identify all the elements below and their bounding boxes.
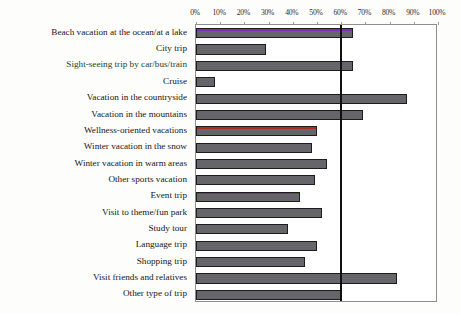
chart-row	[196, 123, 436, 139]
bar	[196, 44, 266, 54]
category-label: Beach vacation at the ocean/at a lake	[51, 27, 187, 37]
x-tick-label: 60%	[334, 8, 347, 17]
x-tick-label: 30%	[261, 8, 274, 17]
category-label: Winter vacation in the snow	[84, 141, 187, 151]
bar-accent-stripe	[197, 29, 352, 31]
bar	[196, 61, 353, 71]
chart-row	[196, 254, 436, 270]
bar	[196, 175, 315, 185]
y-axis-category-labels: Beach vacation at the ocean/at a lakeCit…	[0, 24, 191, 302]
category-label: Other type of trip	[123, 288, 187, 298]
category-label: Winter vacation in warm areas	[75, 158, 187, 168]
chart-row	[196, 205, 436, 221]
reference-line-60-percent	[340, 25, 342, 301]
chart-row	[196, 270, 436, 286]
category-label: Sight-seeing trip by car/bus/train	[66, 59, 187, 69]
x-axis-tick-labels: 0%10%20%30%40%50%60%70%80%90%100%	[195, 8, 437, 21]
bar	[196, 224, 288, 234]
chart-row	[196, 90, 436, 106]
chart-row	[196, 221, 436, 237]
bar	[196, 143, 312, 153]
category-label: Shopping trip	[137, 256, 187, 266]
chart-row	[196, 74, 436, 90]
x-tick-label: 90%	[406, 8, 419, 17]
bar-accent-stripe	[197, 127, 316, 129]
category-label: Vacation in the countryside	[87, 92, 187, 102]
bar-accent-stripe	[197, 193, 299, 195]
x-tick-label: 70%	[358, 8, 371, 17]
bar	[196, 257, 305, 267]
category-label: Cruise	[163, 76, 187, 86]
bar	[196, 77, 215, 87]
chart-row	[196, 189, 436, 205]
x-tick-label: 100%	[429, 8, 446, 17]
category-label: Wellness-oriented vacations	[84, 125, 187, 135]
category-label: Visit to theme/fun park	[102, 207, 187, 217]
bar	[196, 159, 327, 169]
category-label: Event trip	[151, 190, 188, 200]
category-label: Language trip	[136, 239, 187, 249]
plot-area	[195, 24, 437, 302]
category-label: City trip	[156, 43, 187, 53]
bar	[196, 241, 317, 251]
chart-row	[196, 238, 436, 254]
bar-chart: 0%10%20%30%40%50%60%70%80%90%100% Beach …	[0, 0, 461, 314]
x-tick-label: 20%	[237, 8, 250, 17]
bar	[196, 94, 407, 104]
x-tick-label: 80%	[382, 8, 395, 17]
bar	[196, 110, 363, 120]
bar	[196, 273, 397, 283]
x-tick-label: 40%	[285, 8, 298, 17]
x-tick-label: 10%	[213, 8, 226, 17]
axis-tick-mark	[438, 22, 439, 25]
chart-row	[196, 41, 436, 57]
category-label: Other sports vacation	[108, 174, 187, 184]
chart-row	[196, 139, 436, 155]
x-tick-label: 50%	[309, 8, 322, 17]
bar	[196, 208, 322, 218]
bar	[196, 192, 300, 202]
bar	[196, 126, 317, 136]
category-label: Visit friends and relatives	[93, 272, 187, 282]
chart-row	[196, 107, 436, 123]
chart-row	[196, 156, 436, 172]
chart-row	[196, 25, 436, 41]
chart-row	[196, 172, 436, 188]
bar	[196, 28, 353, 38]
category-label: Vacation in the mountains	[91, 109, 187, 119]
chart-row	[196, 58, 436, 74]
chart-row	[196, 287, 436, 303]
x-tick-label: 0%	[190, 8, 200, 17]
bar	[196, 290, 341, 300]
category-label: Study tour	[148, 223, 187, 233]
